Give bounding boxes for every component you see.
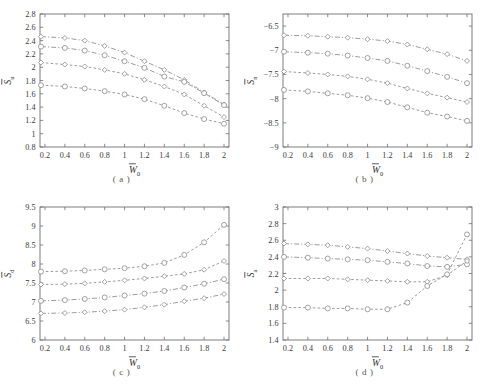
data-point-diamond (222, 115, 227, 120)
y-tick-label: −6.5 (264, 22, 279, 31)
y-tick-label: 2.4 (268, 253, 278, 262)
data-point-diamond (102, 309, 107, 314)
data-point-circle (102, 295, 107, 300)
subplot-d: 0.20.40.60.811.21.41.61.821.41.61.822.22… (243, 193, 486, 386)
data-point-diamond (305, 242, 310, 247)
y-tick-label: 9.5 (25, 203, 35, 212)
x-tick-label: 0.8 (343, 151, 353, 160)
x-tick-label: 0.6 (323, 344, 333, 353)
data-point-circle (102, 267, 107, 272)
x-tick-label: 1.6 (179, 151, 189, 160)
axis-frame (40, 207, 229, 340)
x-tick-label: 1.4 (402, 151, 412, 160)
y-tick-label: 2.4 (25, 37, 35, 46)
series-3-b (281, 69, 469, 104)
data-point-diamond (142, 276, 147, 281)
data-point-circle (345, 93, 350, 98)
data-point-diamond (122, 71, 127, 76)
data-point-circle (82, 48, 87, 53)
y-tick-label: 2 (31, 63, 35, 72)
x-tick-label: 1 (123, 151, 127, 160)
data-point-circle (62, 298, 67, 303)
x-tick-label: 1 (366, 344, 370, 353)
x-tick-label: 0.2 (283, 151, 293, 160)
data-point-circle (62, 269, 67, 274)
data-point-circle (305, 89, 310, 94)
data-point-circle (405, 63, 410, 68)
data-point-circle (202, 240, 207, 245)
data-point-circle (182, 79, 187, 84)
series-line (41, 85, 224, 124)
x-tick-label: 0.2 (283, 344, 293, 353)
y-tick-label: 2.8 (25, 10, 35, 19)
data-point-diamond (465, 58, 470, 63)
axis-frame (283, 14, 472, 147)
data-point-diamond (305, 71, 310, 76)
axis-frame (283, 207, 472, 340)
data-point-diamond (385, 81, 390, 86)
data-point-diamond (82, 38, 87, 43)
data-point-diamond (445, 52, 450, 57)
data-point-diamond (345, 244, 350, 249)
y-tick-label: 1.4 (25, 103, 35, 112)
data-point-diamond (325, 34, 330, 39)
x-tick-label: 1.2 (139, 344, 149, 353)
data-point-circle (162, 103, 167, 108)
data-point-diamond (142, 305, 147, 310)
data-point-circle (222, 277, 227, 282)
y-tick-label: −8.5 (264, 119, 279, 128)
y-tick-label: 1.6 (25, 90, 35, 99)
data-point-circle (345, 306, 350, 311)
data-point-diamond (142, 59, 147, 64)
x-tick-label: 0.4 (303, 151, 313, 160)
data-point-diamond (122, 278, 127, 283)
data-point-circle (62, 84, 67, 89)
data-point-diamond (385, 278, 390, 283)
series-line (284, 72, 467, 102)
data-point-diamond (182, 92, 187, 97)
data-point-diamond (405, 251, 410, 256)
data-point-circle (62, 45, 67, 50)
data-point-diamond (385, 249, 390, 254)
x-tick-label: 1.2 (382, 344, 392, 353)
data-point-circle (305, 50, 310, 55)
x-tick-label: 0.2 (40, 151, 50, 160)
y-tick-label: 2.6 (25, 23, 35, 32)
subplot-caption-b: ( b ) (243, 174, 486, 184)
data-point-diamond (281, 69, 286, 74)
data-point-diamond (82, 64, 87, 69)
data-point-circle (38, 83, 43, 88)
subplot-caption-d: ( d ) (243, 367, 486, 377)
data-point-diamond (445, 95, 450, 100)
x-tick-label: 2 (465, 151, 469, 160)
y-axis-title: Sd (3, 269, 15, 278)
series-3-d (281, 259, 469, 285)
x-tick-label: 1 (123, 344, 127, 353)
data-point-circle (345, 257, 350, 262)
subplot-b: 0.20.40.60.811.21.41.61.82−9−8.5−8−7.5−7… (243, 0, 486, 193)
data-point-diamond (405, 279, 410, 284)
data-point-circle (122, 92, 127, 97)
data-point-circle (305, 305, 310, 310)
data-point-circle (325, 51, 330, 56)
data-point-circle (385, 100, 390, 105)
series-line (41, 37, 224, 105)
data-point-diamond (62, 35, 67, 40)
data-point-circle (142, 65, 147, 70)
y-tick-label: 7.5 (25, 279, 35, 288)
data-point-diamond (365, 37, 370, 42)
series-line (284, 234, 467, 309)
data-point-circle (281, 49, 286, 54)
plot-area-d: 0.20.40.60.811.21.41.61.821.41.61.822.22… (243, 193, 486, 386)
data-point-diamond (281, 241, 286, 246)
data-point-circle (465, 81, 470, 86)
y-tick-label: 1 (31, 130, 35, 139)
y-axis-title: Su (3, 76, 15, 85)
y-tick-label: 3 (274, 203, 278, 212)
data-point-circle (325, 256, 330, 261)
data-point-circle (82, 86, 87, 91)
y-tick-label: 8 (31, 260, 35, 269)
data-point-diamond (122, 307, 127, 312)
x-tick-label: 0.6 (80, 344, 90, 353)
data-point-circle (202, 281, 207, 286)
